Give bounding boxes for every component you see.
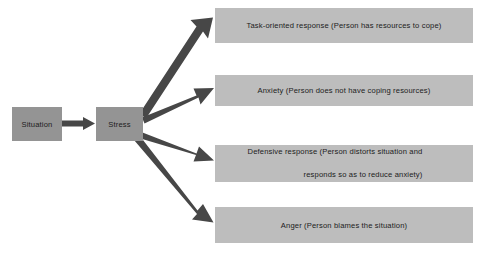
node-anger-label: Anger (Person blames the situation): [275, 220, 413, 231]
node-task-oriented-response-label: Task-oriented response (Person has resou…: [241, 20, 448, 31]
arrow-stress-to-task-oriented: [140, 18, 214, 119]
node-defensive-response[interactable]: Defensive response (Person distorts situ…: [215, 145, 473, 182]
node-defensive-response-line-2: responds so as to reduce anxiety): [248, 169, 423, 180]
arrow-stress-to-anger: [134, 136, 214, 223]
node-defensive-response-label: Defensive response (Person distorts situ…: [242, 135, 447, 192]
node-anxiety-label: Anxiety (Person does not have coping res…: [252, 85, 437, 96]
arrow-situation-to-stress: [62, 117, 95, 130]
node-situation[interactable]: Situation: [12, 107, 62, 141]
node-anger[interactable]: Anger (Person blames the situation): [215, 207, 473, 243]
node-defensive-response-line-1: Defensive response (Person distorts situ…: [248, 146, 423, 157]
node-stress-label: Stress: [102, 119, 136, 130]
node-anxiety[interactable]: Anxiety (Person does not have coping res…: [215, 75, 473, 106]
node-task-oriented-response[interactable]: Task-oriented response (Person has resou…: [215, 8, 473, 43]
node-situation-label: Situation: [16, 119, 59, 130]
node-stress[interactable]: Stress: [96, 107, 143, 141]
stress-response-diagram: Situation Stress Task-oriented response …: [0, 0, 487, 256]
